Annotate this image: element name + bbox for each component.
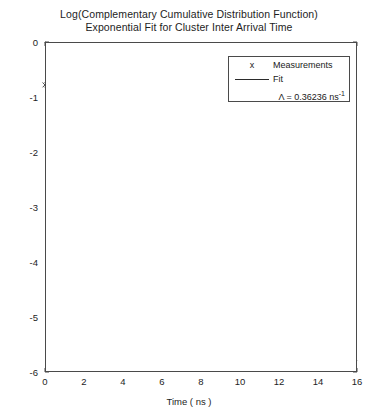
legend-row-fit: Fit bbox=[229, 72, 351, 86]
legend-annotation-text: Λ = 0.36236 ns bbox=[278, 92, 338, 102]
legend-annotation: Λ = 0.36236 ns-1 bbox=[229, 87, 345, 104]
y-tick-label: -1 bbox=[12, 92, 38, 103]
figure-container: Log(Complementary Cumulative Distributio… bbox=[0, 0, 378, 418]
legend-label-measurements: Measurements bbox=[273, 58, 333, 72]
y-tick-label: -3 bbox=[12, 202, 38, 213]
x-tick-label: 14 bbox=[313, 376, 324, 387]
y-tick-label: -2 bbox=[12, 147, 38, 158]
y-tick-label: -4 bbox=[12, 257, 38, 268]
legend-marker-x-icon: x bbox=[233, 58, 271, 72]
legend-label-fit: Fit bbox=[273, 72, 283, 86]
y-tick-label: -6 bbox=[12, 367, 38, 378]
x-tick-label: 4 bbox=[120, 376, 125, 387]
x-tick-label: 8 bbox=[198, 376, 203, 387]
legend-row-measurements: x Measurements bbox=[229, 58, 351, 72]
y-tick-label: 0 bbox=[12, 37, 38, 48]
legend-box: x Measurements Fit Λ = 0.36236 ns-1 bbox=[228, 56, 350, 102]
x-tick-label: 12 bbox=[274, 376, 285, 387]
x-tick-label: 2 bbox=[81, 376, 86, 387]
x-tick-label: 6 bbox=[159, 376, 164, 387]
legend-annotation-exponent: -1 bbox=[339, 90, 345, 97]
legend-line-icon bbox=[235, 79, 269, 80]
x-tick-label: 10 bbox=[235, 376, 246, 387]
x-tick-label: 16 bbox=[352, 376, 363, 387]
x-tick-label: 0 bbox=[42, 376, 47, 387]
x-axis-label: Time ( ns ) bbox=[0, 396, 378, 407]
y-tick-label: -5 bbox=[12, 312, 38, 323]
